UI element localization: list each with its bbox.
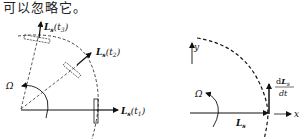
- left-diagram: Ω Ls(t1) Ls(t2) Ls(t3): [5, 22, 146, 139]
- dashed-orbit-arc: [18, 35, 98, 139]
- right-diagram: y Ls dLs dt x Ω: [190, 38, 299, 139]
- vector-ls-t3: [39, 22, 41, 38]
- svg-text:dt: dt: [279, 89, 288, 98]
- dashed-orbit-arc-right: [197, 38, 268, 139]
- y-axis-label: y: [193, 42, 200, 52]
- omega-rotation-arc-right: [206, 93, 218, 127]
- omega-rotation-arc: [22, 86, 48, 119]
- label-ls-t3: Ls(t3): [43, 22, 69, 33]
- label-ls-t2: Ls(t2): [95, 47, 121, 58]
- precession-diagram: Ω Ls(t1) Ls(t2) Ls(t3) y Ls dLs dt x Ω: [0, 0, 304, 139]
- rotor-t3: [24, 35, 50, 43]
- omega-label-left: Ω: [5, 81, 14, 91]
- label-dls-dt: dLs dt: [275, 76, 294, 98]
- omega-label-right: Ω: [194, 89, 203, 99]
- svg-text:dLs: dLs: [276, 76, 290, 87]
- x-axis-label: x: [294, 109, 299, 119]
- label-ls: Ls: [235, 118, 246, 129]
- rotor-t1: [94, 99, 98, 123]
- dashed-radius-t2: [21, 65, 78, 109]
- label-ls-t1: Ls(t1): [120, 106, 146, 117]
- vector-ls-t2: [77, 53, 91, 65]
